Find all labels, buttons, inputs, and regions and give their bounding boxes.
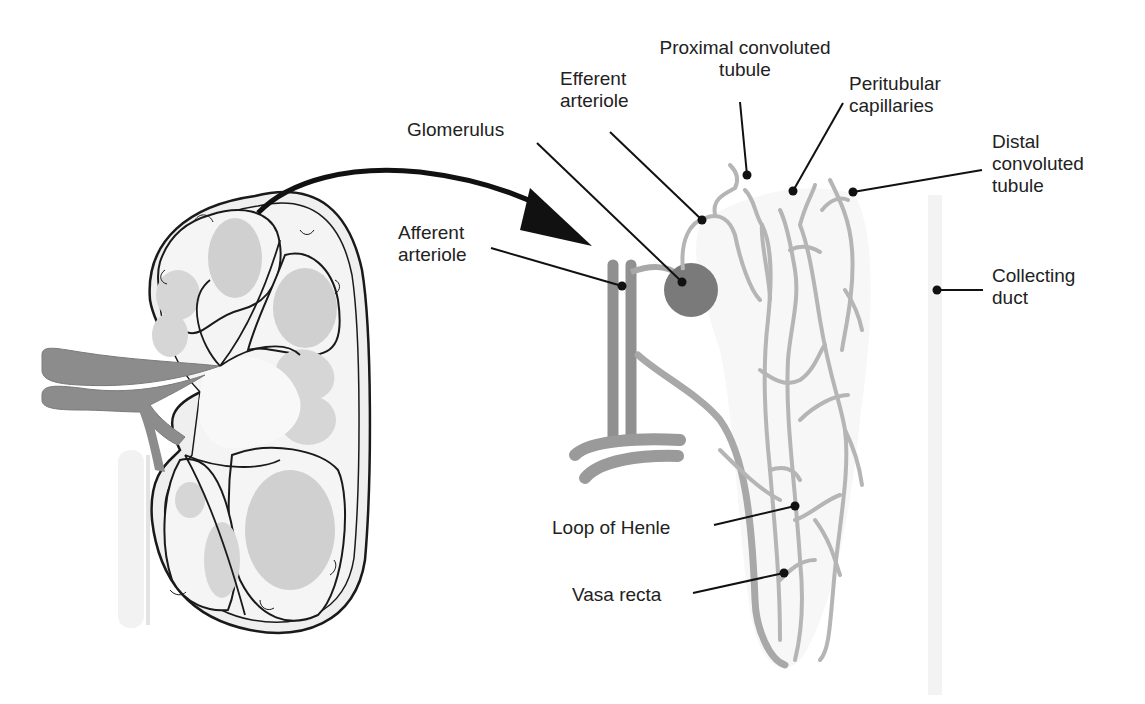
collecting-duct [928,195,942,695]
label-peritubular-capillaries: Peritubular capillaries [849,73,941,117]
leader-afferent-arteriole [491,248,622,286]
renal-pyramid [208,218,262,298]
renal-pyramid [152,313,188,357]
label-vasa-recta: Vasa recta [572,584,661,606]
label-efferent-arteriole: Efferent arteriole [560,68,629,112]
label-distal-convoluted-tubule: Distal convoluted tubule [992,131,1084,197]
ureter-body [118,450,144,628]
nephron [575,165,942,695]
renal-pyramid [204,522,240,598]
leader-peritubular-capillaries [793,103,843,191]
label-proximal-convoluted-tubule: Proximal convoluted tubule [637,37,853,81]
renal-pyramid [245,470,335,590]
label-glomerulus: Glomerulus [407,119,504,141]
arcuate-vein [585,456,678,478]
renal-pyramid [156,270,200,320]
label-afferent-arteriole: Afferent arteriole [398,222,467,266]
leader-efferent-arteriole [610,132,702,220]
kidney-cross-section [42,192,370,633]
label-loop-of-henle: Loop of Henle [552,517,670,539]
renal-pyramid [273,268,337,348]
glomerulus [664,263,718,317]
leader-distal-tubule [853,170,982,192]
afferent-arteriole-vessel [613,265,631,440]
label-collecting-duct: Collecting duct [992,265,1075,309]
leader-proximal-tubule [740,102,747,175]
arrow-head [520,188,592,246]
